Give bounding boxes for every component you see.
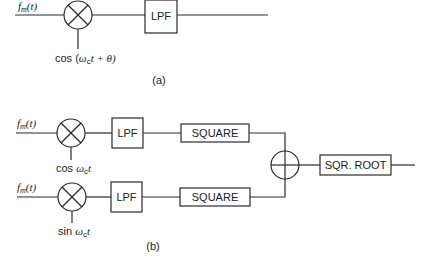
- b-branch-cos: fm(t) cos ωct LPF SQUARE: [16, 117, 285, 176]
- b-top-to-sum-line: [249, 133, 285, 151]
- a-oscillator-label: cos (ωct + θ): [55, 52, 116, 66]
- b-bottom-multiplier-icon: [58, 183, 86, 211]
- b-sqrt-label: SQR. ROOT: [325, 159, 387, 171]
- a-input-label: fm(t): [18, 0, 38, 14]
- b-top-input-label: fm(t): [17, 117, 37, 131]
- diagram-a: fm(t) cos (ωct + θ) LPF (a): [15, 0, 268, 86]
- a-multiplier-icon: [64, 1, 92, 29]
- b-top-lpf-label: LPF: [117, 127, 137, 139]
- b-bottom-lpf-label: LPF: [116, 191, 136, 203]
- caption-b: (b): [146, 240, 159, 252]
- b-branch-sin: fm(t) sin ωct LPF SQUARE: [17, 179, 285, 239]
- a-lpf-label: LPF: [151, 10, 171, 22]
- b-top-multiplier-icon: [57, 119, 85, 147]
- b-top-square-label: SQUARE: [192, 127, 238, 139]
- diagram-b: fm(t) cos ωct LPF SQUARE fm(t): [16, 117, 415, 252]
- b-bottom-to-sum-line: [250, 179, 285, 197]
- caption-a: (a): [152, 74, 165, 86]
- demodulator-diagrams: fm(t) cos (ωct + θ) LPF (a) fm(t) cos ωc…: [0, 0, 429, 271]
- b-bottom-square-label: SQUARE: [192, 191, 238, 203]
- b-bottom-oscillator-label: sin ωct: [58, 225, 91, 239]
- b-top-oscillator-label: cos ωct: [56, 162, 92, 176]
- b-adder-icon: [271, 151, 299, 179]
- b-bottom-input-label: fm(t): [17, 181, 37, 195]
